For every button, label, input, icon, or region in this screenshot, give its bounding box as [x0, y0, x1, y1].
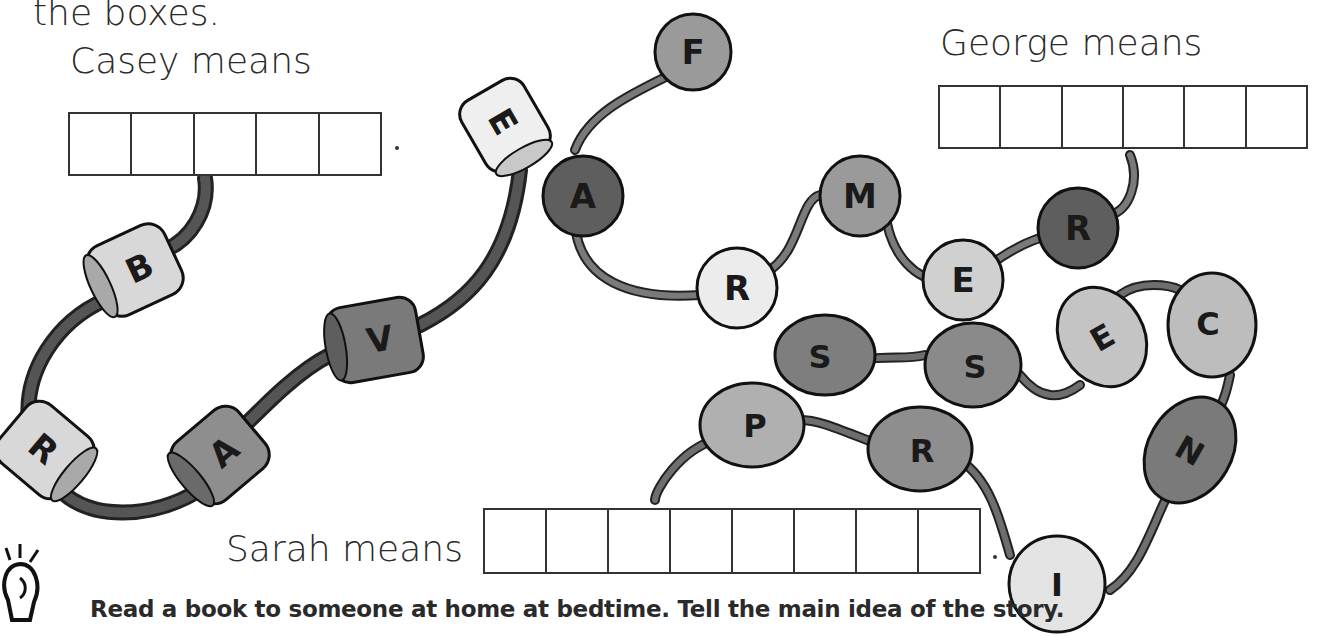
answer-box[interactable]	[733, 510, 795, 572]
bead-sarah-r: R	[868, 407, 972, 491]
bead-george-a: A	[543, 156, 623, 236]
answer-box[interactable]	[1063, 87, 1124, 147]
answer-box[interactable]	[940, 87, 1001, 147]
answer-box[interactable]	[609, 510, 671, 572]
svg-text:S: S	[963, 348, 986, 386]
answer-box[interactable]	[1185, 87, 1246, 147]
bead-sarah-n: N	[1126, 381, 1255, 520]
svg-text:E: E	[951, 260, 974, 300]
answer-box[interactable]	[195, 114, 257, 174]
svg-text:C: C	[1196, 305, 1219, 343]
svg-text:M: M	[843, 176, 877, 216]
svg-text:A: A	[570, 176, 597, 216]
period-mark	[993, 555, 997, 559]
casey-answer-boxes[interactable]	[68, 112, 382, 176]
answer-box[interactable]	[919, 510, 979, 572]
answer-box[interactable]	[795, 510, 857, 572]
bead-casey-r: R	[0, 394, 106, 510]
answer-box[interactable]	[857, 510, 919, 572]
tip-text: Read a book to someone at home at bedtim…	[90, 596, 1064, 622]
answer-box[interactable]	[257, 114, 319, 174]
answer-box[interactable]	[132, 114, 194, 174]
answer-box[interactable]	[320, 114, 380, 174]
svg-text:P: P	[743, 407, 766, 445]
svg-text:R: R	[724, 268, 750, 308]
bead-sarah-p: P	[700, 383, 804, 467]
answer-box[interactable]	[1001, 87, 1062, 147]
bead-george-m: M	[820, 156, 900, 236]
bead-george-r2: R	[1038, 188, 1118, 268]
answer-box[interactable]	[70, 114, 132, 174]
lightbulb-icon	[4, 544, 38, 620]
george-answer-boxes[interactable]	[938, 85, 1308, 149]
answer-box[interactable]	[671, 510, 733, 572]
sarah-answer-boxes[interactable]	[483, 508, 981, 574]
bead-casey-e: E	[454, 72, 560, 184]
svg-text:F: F	[681, 32, 704, 72]
bead-george-e: E	[923, 240, 1003, 320]
bead-sarah-e: E	[1040, 271, 1165, 403]
bead-george-f: F	[655, 14, 731, 90]
bead-george-r1: R	[697, 248, 777, 328]
period-mark	[395, 146, 399, 150]
svg-text:R: R	[910, 432, 935, 470]
answer-box[interactable]	[1247, 87, 1306, 147]
answer-box[interactable]	[547, 510, 609, 572]
answer-box[interactable]	[485, 510, 547, 572]
bead-sarah-c: C	[1168, 273, 1256, 377]
bead-casey-v: V	[319, 295, 426, 386]
svg-text:R: R	[1065, 208, 1091, 248]
bead-sarah-s1: S	[775, 315, 875, 395]
answer-box[interactable]	[1124, 87, 1185, 147]
svg-text:S: S	[808, 338, 831, 376]
bead-sarah-s2: S	[925, 323, 1021, 407]
